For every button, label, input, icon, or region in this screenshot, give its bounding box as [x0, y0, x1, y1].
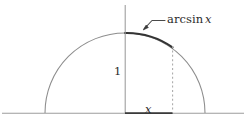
arc-segment-arcsin — [125, 33, 173, 47]
figure-container: arcsinx 1 x — [0, 0, 246, 127]
arcsin-annotation-label: arcsinx — [167, 14, 211, 26]
radius-length-label: 1 — [114, 66, 121, 78]
arcsin-variable: x — [203, 12, 211, 26]
abscissa-length-label: x — [145, 104, 152, 116]
arcsin-function-name: arcsin — [167, 12, 203, 26]
